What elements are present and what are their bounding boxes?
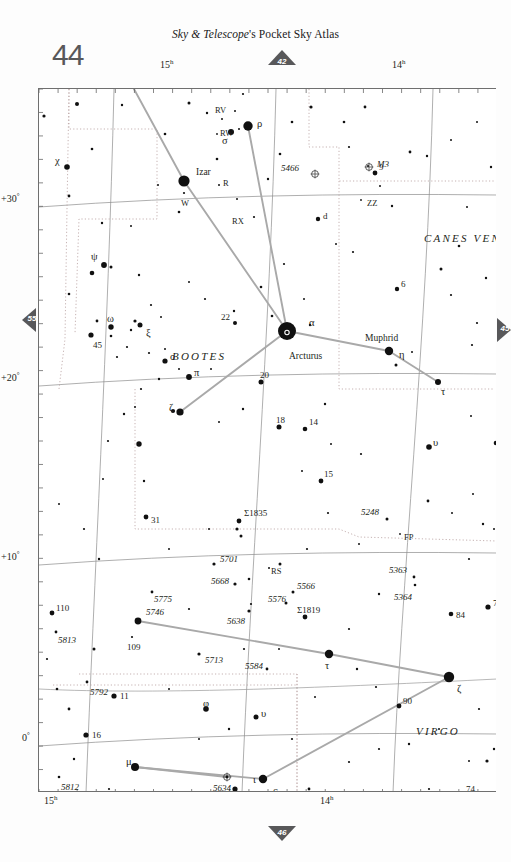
star-marker [449, 612, 454, 617]
star-marker [42, 114, 45, 117]
axis-tick-label: 15h [44, 794, 58, 806]
star-marker [485, 759, 488, 762]
star-marker [75, 102, 79, 106]
star-marker [93, 648, 96, 651]
star-marker [292, 591, 295, 594]
star-label: 5634 [213, 784, 231, 792]
star-marker [68, 708, 71, 711]
star-label: 109 [127, 643, 141, 652]
star-marker [68, 293, 71, 296]
star-marker [133, 319, 136, 322]
deep-sky-label: M3 [377, 160, 389, 169]
star-label: φ [203, 699, 209, 710]
star-marker [450, 139, 452, 141]
star-label: 5566 [297, 582, 315, 591]
star-marker [218, 421, 220, 423]
star-marker [277, 425, 282, 430]
star-label: 16 [92, 731, 101, 740]
star-marker [470, 415, 472, 417]
star-marker [178, 175, 189, 186]
star-label: Izar [196, 168, 211, 178]
star-marker [108, 324, 113, 329]
star-marker [233, 310, 235, 312]
star-label: 110 [56, 604, 69, 613]
star-label: 5792 [90, 688, 108, 697]
star-marker [178, 211, 181, 214]
star-marker [476, 121, 478, 123]
star-marker [360, 199, 362, 201]
star-marker [138, 274, 140, 276]
star-chart[interactable]: χψ45ωRVRWρσIzarWRRXd9ZZξoπ22αArcturus20ζ… [38, 88, 496, 792]
star-marker [466, 791, 471, 792]
axis-tick-label: 0° [22, 731, 30, 743]
star-label: RV [215, 106, 226, 115]
star-marker [131, 763, 139, 771]
star-marker [268, 567, 270, 569]
star-label: 5638 [227, 617, 245, 626]
star-marker [309, 105, 312, 108]
star-marker [237, 519, 242, 524]
star-marker [335, 243, 337, 245]
star-label: W [181, 199, 189, 208]
star-marker [428, 788, 430, 790]
star-label: 6 [401, 280, 406, 289]
star-label: 5668 [211, 577, 229, 586]
star-label: ρ [257, 119, 262, 130]
star-marker [316, 217, 320, 221]
star-label: 22 [221, 313, 230, 322]
star-marker [324, 403, 326, 405]
star-marker [478, 708, 480, 710]
axis-tick-label: 14h [320, 794, 334, 806]
star-marker [148, 352, 150, 354]
star-marker [206, 112, 208, 114]
star-marker [162, 358, 167, 363]
star-label: τ [325, 661, 329, 672]
page-number: 44 [52, 38, 83, 72]
star-marker [482, 523, 484, 525]
star-label: d [323, 212, 328, 221]
star-label: 5363 [389, 566, 407, 575]
star-marker [235, 527, 238, 530]
star-marker [56, 688, 59, 691]
star-marker [204, 298, 206, 300]
star-label: Syrma [273, 789, 298, 792]
star-marker [314, 696, 316, 698]
star-marker [121, 104, 123, 106]
star-marker [236, 198, 238, 200]
star-marker [490, 166, 492, 168]
masthead-suffix: 's Pocket Sky Atlas [249, 28, 339, 40]
star-marker [266, 668, 269, 671]
star-marker [378, 748, 380, 750]
star-marker [399, 533, 401, 535]
star-marker [210, 368, 212, 370]
star-marker [267, 178, 269, 180]
star-label: 14 [309, 418, 318, 427]
star-marker [348, 146, 350, 148]
star-marker [88, 332, 93, 337]
star-marker [134, 406, 136, 408]
star-marker [375, 686, 377, 688]
star-marker [168, 548, 170, 550]
star-marker [240, 535, 243, 538]
star-marker [102, 478, 104, 480]
star-marker [352, 251, 354, 253]
star-marker [303, 298, 305, 300]
star-marker [271, 315, 274, 318]
star-marker [451, 512, 453, 514]
star-marker [183, 192, 185, 194]
star-marker [136, 441, 141, 446]
star-marker [158, 378, 160, 380]
axis-tick-label: +20° [1, 371, 19, 383]
star-marker [123, 413, 125, 415]
star-marker [426, 444, 432, 450]
atlas-page: Sky & Telescope's Pocket Sky Atlas 44 42… [0, 0, 511, 862]
star-marker [130, 329, 132, 331]
deep-sky-label: 5466 [281, 164, 299, 173]
star-marker [150, 304, 152, 306]
star-marker [143, 480, 145, 482]
star-marker [395, 287, 399, 291]
star-label: Arcturus [289, 352, 322, 362]
star-marker [58, 503, 60, 505]
star-marker [108, 788, 110, 790]
star-marker [197, 652, 200, 655]
